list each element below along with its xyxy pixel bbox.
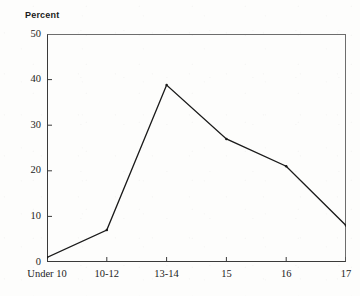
y-tick-label: 20 <box>9 165 41 176</box>
y-tick-label: 10 <box>9 211 41 222</box>
data-point <box>285 165 288 168</box>
data-line-percent <box>47 85 346 257</box>
chart-screenshot: Percent 01020304050 Under 1010-1213-1415… <box>0 0 360 296</box>
y-tick-label: 0 <box>9 257 41 268</box>
y-tick-label: 40 <box>9 74 41 85</box>
x-tick-label: 13-14 <box>154 269 179 280</box>
data-point <box>106 229 109 232</box>
data-point <box>225 138 228 141</box>
x-tick-label: 16 <box>281 269 292 280</box>
y-tick-label: 50 <box>9 29 41 40</box>
x-tick-label: Under 10 <box>27 269 66 280</box>
x-axis-ticks <box>107 257 346 262</box>
x-tick-label: 17 <box>341 269 352 280</box>
x-tick-label: 10-12 <box>95 269 120 280</box>
data-point <box>165 84 168 87</box>
y-axis-title: Percent <box>25 10 59 20</box>
y-tick-label: 30 <box>9 120 41 131</box>
x-tick-label: 15 <box>221 269 232 280</box>
y-axis-ticks <box>47 80 52 217</box>
data-point-markers <box>47 84 346 259</box>
line-chart-plot <box>47 34 346 262</box>
